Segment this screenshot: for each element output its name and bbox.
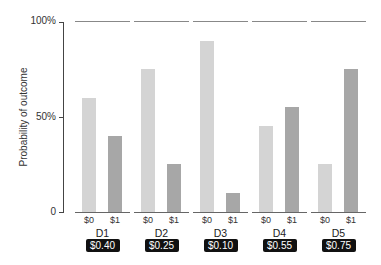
value-badge: $0.10	[204, 239, 238, 252]
x-tick-label: $0	[136, 215, 160, 225]
category-label: D1	[83, 227, 123, 239]
x-tick-label: $1	[162, 215, 186, 225]
value-badge: $0.25	[145, 239, 179, 252]
category-label: D2	[142, 227, 182, 239]
x-tick-label: $0	[77, 215, 101, 225]
x-tick-label: $1	[339, 215, 363, 225]
top-reference-line	[193, 21, 248, 22]
value-badge: $0.75	[322, 239, 356, 252]
bar-zero	[259, 126, 273, 212]
bar-zero	[82, 98, 96, 212]
y-axis-line	[63, 22, 64, 213]
y-tick-0	[59, 212, 63, 213]
y-tick-100	[59, 22, 63, 23]
bar-one	[285, 107, 299, 212]
bar-one	[167, 164, 181, 212]
top-reference-line	[134, 21, 189, 22]
baseline	[193, 212, 248, 213]
x-tick-label: $0	[313, 215, 337, 225]
x-tick-label: $0	[254, 215, 278, 225]
x-tick-label: $0	[195, 215, 219, 225]
y-tick-50	[59, 117, 63, 118]
bar-one	[226, 193, 240, 212]
baseline	[75, 212, 130, 213]
baseline	[252, 212, 307, 213]
category-label: D5	[319, 227, 359, 239]
baseline	[134, 212, 189, 213]
y-tick-label-0: 0	[16, 206, 56, 217]
baseline	[311, 212, 366, 213]
y-tick-label-100: 100%	[16, 15, 56, 26]
bar-zero	[141, 69, 155, 212]
x-tick-label: $1	[221, 215, 245, 225]
bar-one	[108, 136, 122, 212]
category-label: D3	[201, 227, 241, 239]
value-badge: $0.40	[86, 239, 120, 252]
bar-zero	[318, 164, 332, 212]
bar-zero	[200, 41, 214, 212]
y-tick-label-50: 50%	[16, 111, 56, 122]
x-tick-label: $1	[103, 215, 127, 225]
x-tick-label: $1	[280, 215, 304, 225]
top-reference-line	[75, 21, 130, 22]
top-reference-line	[311, 21, 366, 22]
category-label: D4	[260, 227, 300, 239]
value-badge: $0.55	[263, 239, 297, 252]
top-reference-line	[252, 21, 307, 22]
bar-one	[344, 69, 358, 212]
